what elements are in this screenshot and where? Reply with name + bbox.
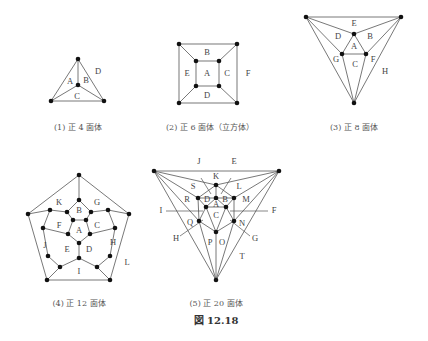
- face-label-E: E: [184, 68, 189, 78]
- dodecahedron-diagram: A B C D E F G H I J K L (4) 正 12 面体: [26, 173, 132, 308]
- face-label-O: O: [219, 237, 225, 247]
- face-label-R: R: [184, 194, 190, 204]
- face-label-H: H: [173, 233, 179, 243]
- caption-cube: (2) 正 6 面体（立方体）: [166, 122, 254, 132]
- face-label-C: C: [94, 220, 100, 230]
- face-label-A: A: [67, 76, 74, 86]
- face-label-C: C: [224, 68, 230, 78]
- face-label-B: B: [204, 47, 210, 57]
- face-label-J: J: [197, 156, 201, 166]
- caption-dodecahedron: (4) 正 12 面体: [52, 298, 105, 308]
- face-label-P: P: [208, 237, 213, 247]
- face-label-F: F: [57, 220, 62, 230]
- face-label-F: F: [371, 54, 376, 64]
- figure-canvas: A B C D (1) 正 4 面体 B A C D E F (2) 正 6 面…: [0, 0, 428, 341]
- face-label-D: D: [335, 31, 341, 41]
- face-label-I: I: [160, 205, 163, 215]
- face-label-A: A: [204, 68, 211, 78]
- face-label-G: G: [333, 54, 339, 64]
- face-label-A: A: [76, 225, 83, 235]
- caption-tetrahedron: (1) 正 4 面体: [54, 122, 102, 132]
- face-label-D: D: [204, 194, 210, 204]
- caption-octahedron: (3) 正 8 面体: [330, 122, 378, 132]
- face-label-C: C: [352, 59, 358, 69]
- face-label-G: G: [94, 197, 100, 207]
- face-label-A: A: [351, 41, 358, 51]
- face-label-E: E: [231, 156, 236, 166]
- face-label-C: C: [74, 91, 80, 101]
- face-label-F: F: [272, 205, 277, 215]
- face-label-E: E: [64, 244, 69, 254]
- face-label-G: G: [252, 233, 258, 243]
- face-label-Q: Q: [187, 217, 193, 227]
- face-label-K: K: [213, 171, 220, 181]
- face-label-I: I: [78, 266, 81, 276]
- face-label-B: B: [367, 31, 373, 41]
- face-label-N: N: [239, 218, 245, 228]
- face-label-D: D: [204, 90, 210, 100]
- face-label-L: L: [236, 181, 241, 191]
- face-label-F: F: [246, 68, 251, 78]
- face-label-H: H: [382, 66, 388, 76]
- face-label-C: C: [213, 210, 219, 220]
- face-label-B: B: [76, 205, 82, 215]
- face-label-S: S: [191, 181, 196, 191]
- tetrahedron-diagram: A B C D (1) 正 4 面体: [49, 57, 107, 132]
- cube-diagram: B A C D E F (2) 正 6 面体（立方体）: [166, 42, 254, 132]
- face-label-D: D: [95, 66, 101, 76]
- face-label-K: K: [56, 197, 63, 207]
- face-label-A: A: [213, 199, 220, 209]
- caption-icosahedron: (5) 正 20 面体: [189, 298, 242, 308]
- octahedron-diagram: E D B A G C F H (3) 正 8 面体: [304, 15, 404, 132]
- face-label-M: M: [242, 194, 250, 204]
- face-label-B: B: [222, 194, 228, 204]
- face-label-B: B: [83, 75, 89, 85]
- face-label-L: L: [124, 257, 129, 267]
- face-label-D: D: [86, 244, 92, 254]
- icosahedron-diagram: A B C D E F G H I J K L M N O P Q R S T …: [152, 156, 282, 308]
- figure-caption: 図 12.18: [194, 315, 239, 326]
- face-label-H: H: [110, 237, 116, 247]
- face-label-T: T: [239, 251, 245, 261]
- face-label-E: E: [351, 18, 356, 28]
